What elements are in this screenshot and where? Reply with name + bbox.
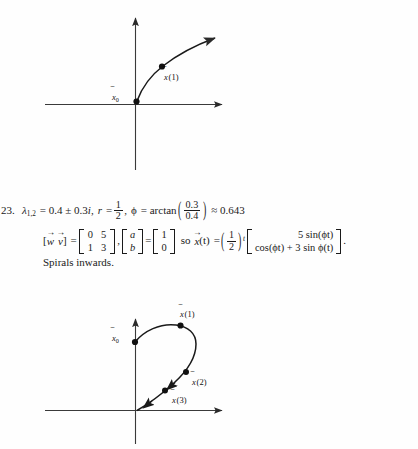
vector-10: 10 [153, 229, 174, 255]
phi-symbol: ϕ [131, 204, 137, 216]
paren-close-2: ) [239, 229, 242, 254]
arctan-label: = arctan [141, 204, 177, 216]
paren-open-1: ( [178, 198, 181, 223]
math-line-matrices: [→w→v]=0513,ab=10so→x(t)=(12)t5 sin(ϕt)c… [0, 229, 418, 255]
figure-phase-portrait-spiral-inward: x0 ̅ x(1) ̅ x(2) ̅ x(3) ̅ [0, 292, 418, 449]
point-x1 [177, 322, 183, 328]
label-x0-vector-bar: ̅ [111, 86, 115, 87]
paren-close-1: ) [203, 198, 206, 223]
matrix-wv: 0513 [79, 229, 115, 255]
equals-solution: = [214, 235, 220, 247]
point-x2 [183, 369, 189, 375]
phi-approx-value: ≈ 0.643 [211, 204, 245, 216]
label-x1: x(1) [163, 72, 179, 82]
direction-arrow-upper [171, 383, 176, 387]
solution-math-block: 23.λ1,2= 0.4 ± 0.3i,r=12,ϕ= arctan(0.30.… [0, 200, 418, 268]
fraction-ratio: 0.30.4 [184, 200, 201, 222]
point-x0 [132, 339, 138, 345]
label-x2: x(2) [191, 377, 207, 387]
label-x1: x(1) [179, 309, 195, 319]
so-connector: so [181, 235, 191, 247]
math-line-eigenvalues: 23.λ1,2= 0.4 ± 0.3i,r=12,ϕ= arctan(0.30.… [0, 200, 418, 222]
trajectory-curve [137, 38, 215, 101]
w-vector: →w [47, 233, 54, 247]
label-x0: x0 [111, 333, 119, 344]
label-x0: x0 [111, 92, 119, 103]
comma-matrices: , [117, 235, 120, 247]
trajectory-curve [135, 325, 196, 411]
matrix-solution-vector: 5 sin(ϕt)cos(ϕt) + 3 sin ϕ(t) [247, 229, 341, 255]
fraction-one-half: 12 [114, 200, 123, 222]
equals-ab: = [145, 235, 151, 247]
math-line-conclusion: Spirals inwards. [0, 256, 418, 269]
conclusion-text: Spirals inwards. [43, 256, 114, 268]
paren-open-2: ( [221, 229, 224, 254]
point-x0 [133, 98, 139, 104]
lambda-subscript: 1,2 [27, 210, 36, 218]
label-x3: x(3) [171, 395, 187, 405]
equals-wv: = [71, 235, 77, 247]
textbook-solution-page: x0 ̅ x(1) ̅ 23.λ1,2= 0.4 ± 0.3i,r=12,ϕ= … [0, 0, 418, 449]
label-x1-vector-bar: ̅ [179, 304, 183, 305]
eigenvalue-equation: = 0.4 ± 0.3 [40, 204, 88, 216]
equals-1: = [106, 204, 112, 216]
vector-ab: ab [122, 229, 143, 255]
comma-1: , [91, 204, 94, 216]
r-symbol: r [98, 204, 102, 216]
label-x2-vector-bar: ̅ [191, 371, 195, 372]
comma-2: , [124, 204, 127, 216]
item-number: 23. [1, 204, 22, 217]
top-figure-canvas: x0 ̅ x(1) ̅ [0, 0, 418, 185]
fraction-half-base: 12 [227, 230, 236, 252]
x-of-t-vector: →x [194, 233, 199, 247]
figure-phase-portrait-spiral-outward: x0 ̅ x(1) ̅ [0, 0, 418, 185]
point-x3 [162, 388, 168, 394]
exponent-t: t [243, 235, 245, 243]
label-x3-vector-bar: ̅ [171, 389, 175, 390]
point-x1 [159, 63, 165, 69]
period-end: . [343, 235, 346, 247]
bottom-figure-canvas: x0 ̅ x(1) ̅ x(2) ̅ x(3) ̅ [0, 292, 418, 449]
label-x0-vector-bar: ̅ [111, 327, 115, 328]
v-vector: →v [58, 233, 63, 247]
